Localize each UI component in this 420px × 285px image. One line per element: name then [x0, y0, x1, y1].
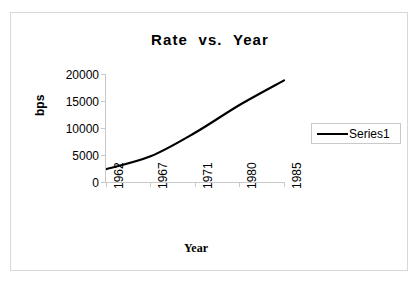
y-axis-tick-label: 10000	[39, 122, 99, 136]
plot-area	[106, 75, 284, 182]
y-axis-tick-label: 5000	[39, 149, 99, 163]
legend-line-swatch-icon	[317, 133, 348, 135]
series1-line	[106, 75, 286, 183]
y-axis-tick-label: 0	[39, 176, 99, 190]
x-axis-title: Year	[106, 241, 286, 256]
y-axis-tick-label: 20000	[39, 68, 99, 82]
y-axis-tick-label: 15000	[39, 95, 99, 109]
x-axis-tick-label: 1985	[290, 162, 304, 189]
chart-frame: Rate vs. Year bps 20000 15000 10000 5000…	[10, 12, 408, 271]
chart-legend: Series1	[311, 123, 401, 144]
legend-item-label: Series1	[349, 127, 390, 141]
y-axis-tick-labels: 20000 15000 10000 5000 0	[37, 13, 99, 272]
